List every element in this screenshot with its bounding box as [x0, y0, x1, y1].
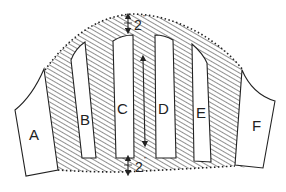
panel-a-label: A — [29, 126, 39, 143]
panel-b-label: B — [80, 111, 90, 128]
top-margin-value: 2 — [134, 17, 142, 33]
panel-c-label: C — [117, 100, 128, 117]
panel-f: F — [235, 70, 275, 168]
panel-c: C — [113, 35, 134, 158]
panel-d: D — [155, 35, 176, 158]
pattern-diagram: A B C D E F 2 " 2 " — [0, 0, 286, 192]
panel-e-label: E — [196, 104, 206, 121]
bottom-margin-value: 2 — [135, 159, 143, 175]
panel-f-label: F — [252, 117, 261, 134]
panel-d-label: D — [158, 100, 169, 117]
